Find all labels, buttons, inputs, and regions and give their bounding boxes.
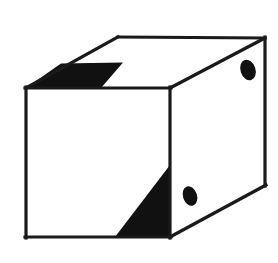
figure-root: Line drawing of a cube with shaded wedge… xyxy=(0,0,278,263)
edge-top-back xyxy=(118,37,265,38)
cube-illustration xyxy=(0,0,278,263)
